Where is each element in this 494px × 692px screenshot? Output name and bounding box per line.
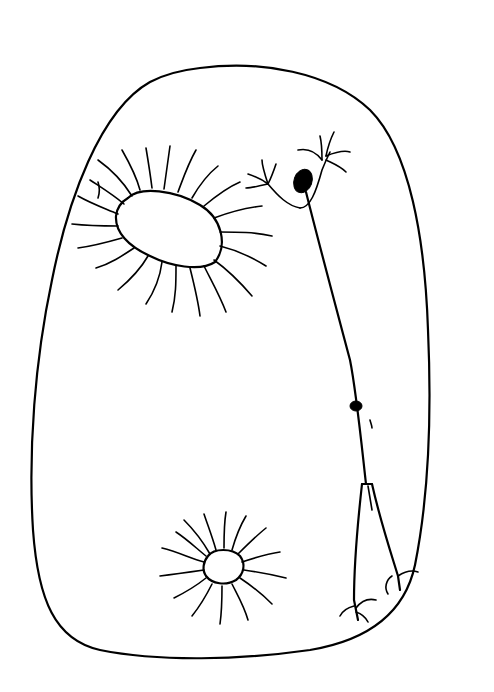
egg-outline	[31, 66, 429, 659]
line-drawing-canvas: Black ink line drawing of a large egg/pe…	[0, 0, 494, 692]
upper-opening-hairs	[72, 146, 272, 316]
lower-opening	[204, 550, 244, 583]
upper-opening	[116, 191, 222, 267]
line-drawing	[0, 0, 494, 692]
egg-detail-line	[98, 182, 100, 198]
lower-opening-hairs	[160, 512, 286, 624]
stick-figure	[246, 132, 418, 622]
figure-head	[290, 167, 315, 196]
